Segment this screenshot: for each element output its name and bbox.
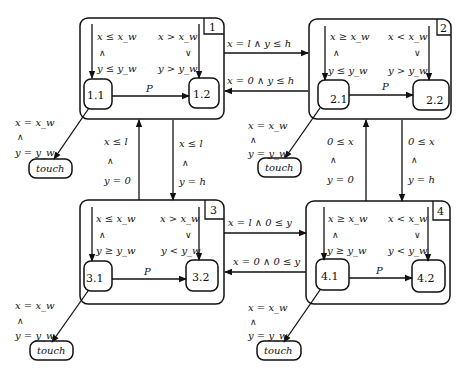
touch-state-2[interactable]: touch bbox=[258, 158, 301, 177]
touch-state-4[interactable]: touch bbox=[257, 341, 301, 360]
touch-guard-op: ∧ bbox=[17, 132, 24, 142]
guard-top: x ≤ x_w bbox=[96, 213, 136, 225]
guard-top: x ≤ x_w bbox=[97, 31, 137, 43]
state-2-1[interactable]: 2.1 bbox=[318, 80, 349, 109]
state-2-2[interactable]: 2.2 bbox=[413, 80, 449, 110]
transition-label: x = 0 ∧ y ≤ h bbox=[227, 75, 294, 86]
guard-bottom: y < y_w bbox=[387, 245, 428, 257]
guard-top: 0 ≤ x bbox=[408, 136, 435, 147]
touch-guard-op: ∧ bbox=[250, 135, 257, 145]
guard-op: ∧ bbox=[107, 156, 114, 166]
transition-label: x = 0 ∧ 0 ≤ y bbox=[233, 256, 301, 267]
guard-top: x ≥ x_w bbox=[328, 213, 368, 225]
touch-guard-op: ∧ bbox=[17, 316, 24, 326]
transition-label: x = l ∧ y ≤ h bbox=[227, 38, 291, 49]
guard-bottom: y = 0 bbox=[103, 175, 131, 186]
state-label: 4.2 bbox=[417, 272, 435, 285]
guard-op: ∧ bbox=[99, 230, 106, 240]
superstate-3: 3 x ≤ x_w ∧ y ≥ y_w x > x_w ∨ y < y_w 3.… bbox=[14, 200, 224, 360]
touch-guard-bottom: y = y_w bbox=[247, 330, 288, 342]
guard-op: ∧ bbox=[333, 48, 340, 58]
guard-top: x > x_w bbox=[160, 213, 200, 225]
touch-guard-bottom: y = y_w bbox=[14, 330, 55, 342]
touch-guard-top: x = x_w bbox=[248, 302, 288, 314]
superstate-2-label: 2 bbox=[440, 22, 447, 35]
guard-op: ∨ bbox=[185, 230, 192, 240]
guard-op: ∧ bbox=[182, 158, 189, 168]
touch-guard-op: ∧ bbox=[250, 317, 257, 327]
transition-label: P bbox=[143, 266, 151, 277]
state-label: 1.1 bbox=[87, 89, 105, 102]
touch-state-3[interactable]: touch bbox=[30, 341, 73, 360]
touch-label: touch bbox=[36, 163, 65, 174]
guard-bottom: y = 0 bbox=[326, 174, 354, 185]
superstate-1-label: 1 bbox=[209, 21, 216, 34]
state-label: 1.2 bbox=[193, 88, 211, 101]
state-4-2[interactable]: 4.2 bbox=[412, 260, 445, 292]
guard-op: ∧ bbox=[99, 48, 106, 58]
guard-top: x ≤ l bbox=[104, 136, 128, 147]
state-1-2[interactable]: 1.2 bbox=[189, 78, 219, 108]
guard-top: x ≥ x_w bbox=[330, 31, 370, 43]
touch-guard-bottom: y = y_w bbox=[14, 147, 55, 159]
touch-guard-top: x = x_w bbox=[248, 120, 288, 132]
guard-bottom: y ≥ y_w bbox=[95, 245, 136, 257]
touch-label: touch bbox=[264, 345, 293, 356]
touch-label: touch bbox=[265, 162, 294, 173]
touch-guard-top: x = x_w bbox=[15, 117, 55, 129]
touch-state-1[interactable]: touch bbox=[29, 159, 72, 178]
touch-guard-top: x = x_w bbox=[15, 300, 55, 312]
guard-top: 0 ≤ x bbox=[327, 136, 354, 147]
guard-top: x ≤ l bbox=[179, 138, 203, 149]
guard-bottom: y > y_w bbox=[387, 65, 428, 77]
state-label: 3.1 bbox=[86, 272, 104, 285]
guard-bottom: y ≤ y_w bbox=[327, 65, 368, 77]
state-4-1[interactable]: 4.1 bbox=[316, 259, 349, 290]
state-label: 2.2 bbox=[426, 94, 444, 107]
superstate-1: 1 x ≤ x_w ∧ y ≤ y_w x > x_w ∨ y > y_w 1.… bbox=[14, 18, 224, 178]
guard-op: ∨ bbox=[185, 48, 192, 58]
state-3-2[interactable]: 3.2 bbox=[186, 260, 218, 291]
guard-op: ∨ bbox=[414, 48, 421, 58]
touch-arrow-4 bbox=[284, 290, 320, 342]
state-1-1[interactable]: 1.1 bbox=[84, 79, 112, 109]
guard-top: x > x_w bbox=[158, 31, 198, 43]
guard-bottom: y > y_w bbox=[157, 63, 198, 75]
state-label: 3.2 bbox=[192, 271, 210, 284]
state-label: 4.1 bbox=[321, 270, 339, 283]
guard-op: ∨ bbox=[414, 230, 421, 240]
guard-top: x < x_w bbox=[388, 31, 428, 43]
transition-label: P bbox=[375, 265, 383, 276]
guard-bottom: y ≥ y_w bbox=[326, 245, 367, 257]
touch-label: touch bbox=[37, 345, 66, 356]
guard-bottom: y < y_w bbox=[160, 245, 201, 257]
guard-bottom: y ≤ y_w bbox=[96, 63, 137, 75]
touch-arrow-3 bbox=[52, 291, 88, 342]
transition-label: P bbox=[145, 83, 153, 94]
touch-arrow-2 bbox=[285, 108, 320, 158]
superstate-3-label: 3 bbox=[210, 204, 217, 217]
state-label: 2.1 bbox=[330, 93, 348, 106]
touch-arrow-1 bbox=[54, 108, 89, 159]
transition-label: x = l ∧ 0 ≤ y bbox=[228, 217, 292, 228]
guard-op: ∧ bbox=[332, 230, 339, 240]
guard-bottom: y = h bbox=[407, 174, 435, 185]
guard-bottom: y = h bbox=[178, 176, 206, 187]
state-diagram: 1 x ≤ x_w ∧ y ≤ y_w x > x_w ∨ y > y_w 1.… bbox=[0, 0, 467, 380]
transition-label: P bbox=[381, 81, 389, 92]
state-3-1[interactable]: 3.1 bbox=[84, 261, 112, 291]
guard-op: ∧ bbox=[411, 155, 418, 165]
superstate-4-label: 4 bbox=[437, 205, 444, 218]
guard-top: x < x_w bbox=[388, 213, 428, 225]
guard-op: ∧ bbox=[330, 155, 337, 165]
